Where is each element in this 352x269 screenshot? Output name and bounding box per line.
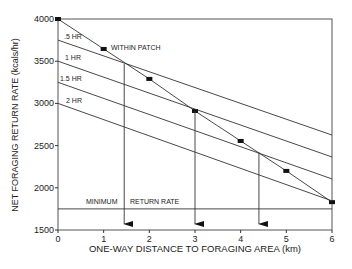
data-point-marker: [238, 139, 244, 143]
series-annotation: 1 HR: [65, 54, 81, 61]
y-tick-label: 2500: [34, 141, 54, 151]
y-tick-label: 3500: [34, 56, 54, 66]
data-point-marker: [101, 47, 107, 51]
minimum-label: MINIMUM: [86, 198, 118, 205]
series-annotation: 1.5 HR: [60, 75, 82, 82]
y-axis-label: NET FORAGING RETURN RATE (kcals/hr): [10, 38, 20, 212]
return-rate-label: RETURN RATE: [130, 198, 180, 205]
series-annotation: 2 HR: [66, 97, 82, 104]
x-tick-label: 0: [55, 234, 60, 244]
data-point-marker: [283, 169, 289, 173]
axes: 0123456150020002500300035004000: [34, 14, 335, 244]
y-tick-label: 4000: [34, 14, 54, 24]
y-tick-label: 3000: [34, 98, 54, 108]
data-point-marker: [146, 77, 152, 81]
data-point-marker: [55, 17, 61, 21]
chart: 0123456150020002500300035004000 MINIMUMR…: [0, 0, 352, 269]
x-axis-label: ONE-WAY DISTANCE TO FORAGING AREA (km): [89, 243, 301, 254]
y-tick-label: 1500: [34, 225, 54, 235]
x-tick-label: 6: [329, 234, 334, 244]
plot-lines: [55, 17, 335, 224]
y-tick-label: 2000: [34, 183, 54, 193]
series-annotation: WITHIN PATCH: [111, 44, 161, 51]
series-annotation: .5 HR: [64, 33, 82, 40]
